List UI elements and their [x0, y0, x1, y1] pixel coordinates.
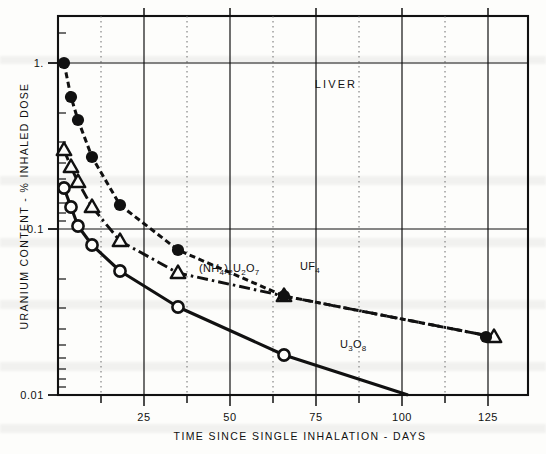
series-label-u3o8: U3O8: [340, 338, 367, 353]
y-tick-label-1: 1.: [34, 57, 44, 69]
series-ammonium-diuranate-markers: [57, 143, 501, 343]
x-tick-label-75: 75: [309, 411, 322, 423]
plot-title-liver: LIVER: [315, 78, 357, 90]
chart-svg: LIVER UF4 (NH4)2U2O7 U3O8 1. 0.1 0.01 25…: [0, 0, 546, 454]
series-ammonium-diuranate-line: [64, 150, 494, 337]
series-label-uf4: UF4: [300, 260, 320, 275]
x-axis-ticks: [101, 395, 488, 406]
series-u3o8: [58, 182, 408, 395]
series-label-ammonium-diuranate: (NH4)2U2O7: [199, 262, 260, 277]
x-tick-label-25: 25: [137, 411, 150, 423]
x-tick-label-50: 50: [223, 411, 236, 423]
series-ammonium-diuranate: [57, 143, 501, 343]
y-axis-major-ticks: [48, 63, 58, 395]
series-uf4-markers: [58, 57, 492, 343]
x-gridlines-minor: [101, 16, 445, 395]
x-tick-label-125: 125: [478, 411, 498, 423]
y-gridlines: [58, 63, 528, 229]
liver-uranium-retention-chart: LIVER UF4 (NH4)2U2O7 U3O8 1. 0.1 0.01 25…: [0, 0, 546, 454]
y-tick-label-0-01: 0.01: [20, 389, 44, 401]
series-u3o8-line: [64, 188, 408, 395]
x-gridlines-major: [144, 16, 488, 395]
x-tick-label-100: 100: [392, 411, 412, 423]
y-axis-title: URANIUM CONTENT - % INHALED DOSE: [18, 82, 30, 329]
x-axis-top-ticks: [144, 8, 488, 16]
plot-frame: [58, 16, 528, 395]
x-axis-title: TIME SINCE SINGLE INHALATION - DAYS: [174, 430, 427, 442]
